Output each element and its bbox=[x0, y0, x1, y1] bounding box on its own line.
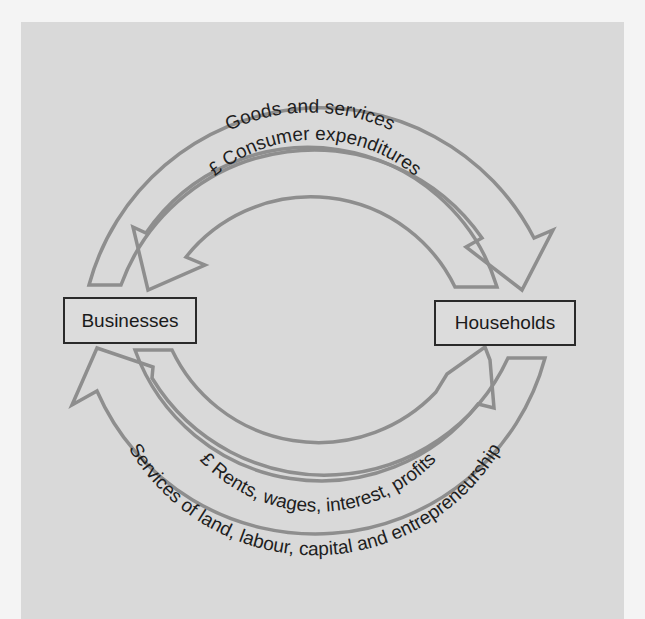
businesses-box: Businesses bbox=[63, 297, 197, 344]
households-box: Households bbox=[434, 300, 576, 346]
businesses-label: Businesses bbox=[81, 310, 178, 332]
rents-wages-interest-profits-arrow bbox=[135, 347, 494, 481]
consumer-expenditures-arrow bbox=[133, 147, 497, 290]
households-label: Households bbox=[455, 312, 555, 334]
